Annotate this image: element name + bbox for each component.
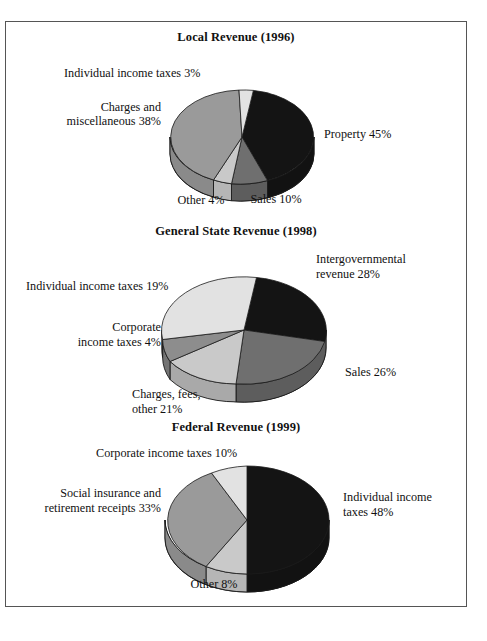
label-intergov-line1: Intergovernmental <box>316 252 406 267</box>
label-individual-income-taxes: Individual income taxes 19% <box>26 279 169 294</box>
label-social-line1: Social insurance and <box>26 486 161 501</box>
label-corporate-line2: income taxes 4% <box>36 335 161 350</box>
label-charges-line1: Charges, fees, <box>132 387 200 402</box>
label-intergov-line2: revenue 28% <box>316 267 380 282</box>
figure-frame: Local Revenue (1996) <box>5 21 467 607</box>
label-other: Other 8% <box>174 577 254 592</box>
chart-title-federal-revenue: Federal Revenue (1999) <box>6 420 466 435</box>
label-corporate-income-taxes: Corporate income taxes 10% <box>96 446 237 461</box>
label-other: Other 4% <box>161 193 241 208</box>
chart-title-local-revenue: Local Revenue (1996) <box>6 30 466 45</box>
chart-title-general-state-revenue: General State Revenue (1998) <box>6 224 466 239</box>
label-charges-line2: miscellaneous 38% <box>36 114 161 129</box>
label-individual-line2: taxes 48% <box>343 505 393 520</box>
pie-chart-federal-revenue: Federal Revenue (1999) <box>6 414 466 606</box>
label-sales: Sales 26% <box>345 365 396 380</box>
pie-graphic-local-revenue <box>167 82 317 206</box>
label-individual-income-taxes: Individual income taxes 3% <box>64 66 200 81</box>
pie-svg-2 <box>158 266 330 406</box>
label-corporate-line1: Corporate <box>36 320 161 335</box>
pie-svg-3 <box>161 456 333 596</box>
label-individual-line1: Individual income <box>343 490 432 505</box>
label-charges-line1: Charges and <box>36 100 161 115</box>
pie-svg-1 <box>167 82 317 202</box>
pie-chart-local-revenue: Local Revenue (1996) <box>6 22 466 218</box>
label-social-line2: retirement receipts 33% <box>26 501 161 516</box>
label-sales: Sales 10% <box>236 192 316 207</box>
pie-chart-general-state-revenue: General State Revenue (1998) <box>6 218 466 414</box>
label-property: Property 45% <box>324 127 391 142</box>
